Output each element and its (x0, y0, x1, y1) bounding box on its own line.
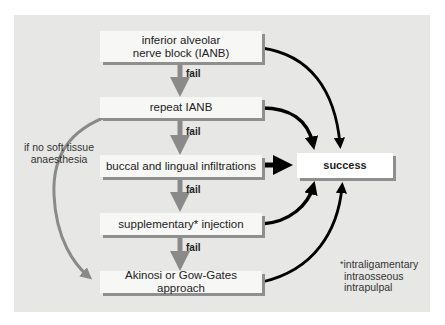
footnote: *intraligamentary intraosseous intrapulp… (340, 259, 418, 294)
fail-label-3: fail (186, 184, 200, 195)
fail-label-1: fail (186, 68, 200, 79)
node-akinosi-label: Akinosi or Gow-Gates approach (100, 269, 262, 295)
node-infiltrations-label: buccal and lingual infiltrations (106, 160, 256, 173)
footnote-line-3: intrapulpal (340, 282, 418, 294)
side-note-line-1: if no soft tissue (18, 141, 100, 153)
footnote-line-1: intraligamentary (344, 258, 419, 270)
success-arrow-from-supplementary (262, 187, 313, 224)
node-repeat-ianb-label: repeat IANB (150, 101, 213, 114)
success-arrow-from-akinosi (262, 187, 342, 282)
node-akinosi: Akinosi or Gow-Gates approach (100, 271, 262, 293)
side-note-line-2: anaesthesia (18, 153, 100, 165)
node-repeat-ianb: repeat IANB (100, 97, 262, 118)
no-anaesthesia-arrow (54, 112, 120, 276)
success-arrow-from-ianb (262, 48, 340, 144)
fail-label-2: fail (186, 126, 200, 137)
node-infiltrations: buccal and lingual infiltrations (100, 155, 262, 177)
node-supplementary-label: supplementary* injection (118, 218, 243, 231)
node-ianb-line-2: nerve block (IANB) (133, 47, 230, 60)
node-ianb-line-1: inferior alveolar (142, 34, 221, 47)
side-note: if no soft tissue anaesthesia (18, 141, 100, 165)
node-success-label: success (323, 159, 366, 172)
node-success: success (297, 153, 393, 178)
fail-label-4: fail (186, 242, 200, 253)
success-arrow-from-repeat (262, 108, 313, 144)
node-supplementary: supplementary* injection (100, 213, 262, 235)
node-ianb: inferior alveolar nerve block (IANB) (100, 31, 262, 62)
